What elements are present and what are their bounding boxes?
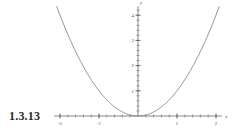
y-tick-label: 3 — [132, 38, 135, 43]
plot-svg: -2-112 1234 x y — [0, 0, 241, 132]
y-tick-label: 1 — [132, 89, 135, 94]
parabola-plot: -2-112 1234 x y — [0, 0, 241, 132]
y-tick-label: 4 — [132, 13, 135, 18]
y-tick-label: 2 — [132, 63, 135, 68]
x-tick-label: -1 — [97, 121, 102, 126]
x-axis-tick-labels: -2-112 — [58, 121, 218, 126]
x-axis-label: x — [224, 114, 227, 119]
figure-root: 1.3.13 -2-112 1234 x y — [0, 0, 241, 132]
x-tick-label: -2 — [58, 121, 63, 126]
x-tick-label: 1 — [176, 121, 179, 126]
x-tick-label: 2 — [215, 121, 218, 126]
y-axis-tick-labels: 1234 — [132, 13, 135, 94]
y-axis-label: y — [139, 0, 143, 5]
